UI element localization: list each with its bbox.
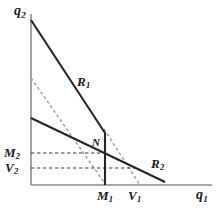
curve-label-r1-text: R (77, 74, 86, 89)
axis-tick-label-m1-sub: 1 (109, 194, 113, 204)
axis-tick-label-m2: M2 (4, 146, 20, 159)
curve-label-r2-sub: 2 (160, 162, 164, 172)
axis-tick-label-v1: V1 (128, 189, 141, 202)
axis-tick-label-v2: V2 (5, 161, 18, 174)
x-axis-label-sub: 1 (203, 194, 208, 204)
axis-tick-label-v2-text: V (5, 160, 14, 175)
dashed-ray-upper (31, 78, 106, 185)
dashed-ray-lower (104, 129, 140, 185)
axis-tick-label-m1-text: M (97, 188, 109, 203)
point-label-n-text: N (92, 136, 100, 148)
axis-tick-label-v1-text: V (128, 188, 137, 203)
curve-label-r1-sub: 1 (86, 80, 90, 90)
curve-r1 (31, 20, 105, 185)
curve-r2 (31, 118, 165, 182)
economics-figure: q2 q1 R1 R2 N M2 V2 M1 V1 (0, 0, 220, 209)
x-axis-label: q1 (196, 188, 208, 202)
y-axis-label-sub: 2 (21, 10, 26, 20)
axis-tick-label-m2-sub: 2 (16, 151, 20, 161)
axis-tick-label-v2-sub: 2 (14, 166, 18, 176)
curve-label-r2-text: R (151, 156, 160, 171)
axis-tick-label-m2-text: M (4, 145, 16, 160)
axis-tick-label-m1: M1 (97, 189, 113, 202)
point-label-n: N (92, 137, 100, 148)
curve-label-r2: R2 (151, 157, 164, 170)
x-axis-label-text: q (196, 187, 203, 202)
curve-label-r1: R1 (77, 75, 90, 88)
axis-tick-label-v1-sub: 1 (137, 194, 141, 204)
figure-canvas (0, 0, 220, 209)
y-axis-label-text: q (14, 3, 21, 18)
y-axis-label: q2 (14, 4, 26, 18)
